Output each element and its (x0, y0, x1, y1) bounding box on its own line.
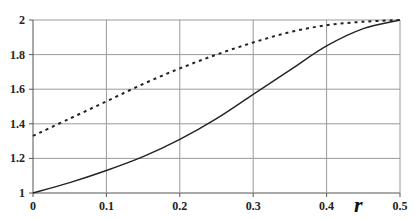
x-axis-label: r (354, 192, 363, 217)
y-tick-label: 1.6 (10, 82, 25, 96)
y-tick-label: 1.2 (10, 151, 25, 165)
axes (29, 20, 400, 197)
y-axis-ticks: 11.21.41.61.82 (10, 13, 25, 200)
y-tick-label: 1.4 (10, 117, 25, 131)
data-series (33, 20, 400, 193)
x-tick-label: 0.3 (246, 199, 261, 213)
y-tick-label: 1.8 (10, 48, 25, 62)
y-tick-label: 2 (19, 13, 25, 27)
line-chart: 11.21.41.61.82 00.10.20.30.40.5 r (0, 0, 415, 219)
solid-series-line (33, 20, 400, 193)
x-tick-label: 0.5 (393, 199, 408, 213)
x-axis-ticks: 00.10.20.30.40.5 (30, 199, 408, 213)
x-tick-label: 0.1 (99, 199, 114, 213)
grid-lines (33, 20, 400, 193)
x-tick-label: 0.4 (319, 199, 334, 213)
x-tick-label: 0 (30, 199, 36, 213)
x-tick-label: 0.2 (172, 199, 187, 213)
y-tick-label: 1 (19, 186, 25, 200)
